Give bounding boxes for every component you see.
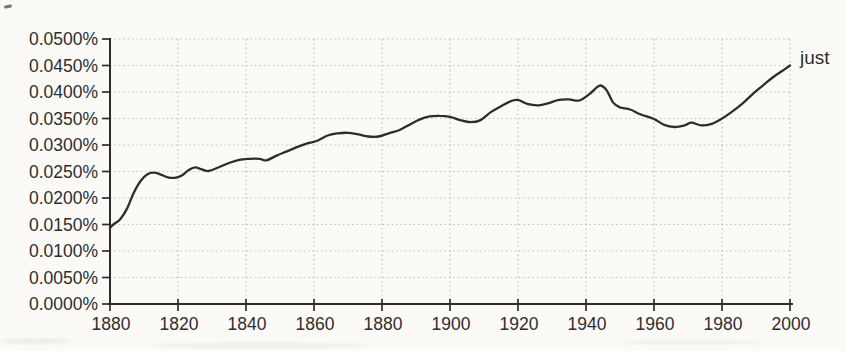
x-tick-label: 1980: [704, 314, 743, 334]
x-tick-label: 1920: [500, 314, 539, 334]
y-tick-label: 0.0450%: [29, 56, 98, 76]
tick-marks: [102, 39, 790, 311]
y-tick-label: 0.0000%: [29, 294, 98, 314]
y-tick-label: 0.0500%: [29, 29, 98, 49]
scan-smudge: [150, 343, 370, 348]
series-label: just: [799, 47, 830, 68]
y-tick-label: 0.0050%: [29, 268, 98, 288]
y-tick-label: 0.0200%: [29, 188, 98, 208]
scanned-ngram-page: 0.0500%0.0450%0.0400%0.0350%0.0300%0.025…: [0, 0, 846, 351]
gridlines: [110, 39, 790, 304]
ngram-frequency-chart: 0.0500%0.0450%0.0400%0.0350%0.0300%0.025…: [0, 0, 846, 351]
x-tick-label: 1880: [92, 314, 131, 334]
x-tick-label: 1840: [228, 314, 267, 334]
y-tick-label: 0.0100%: [29, 241, 98, 261]
y-tick-label: 0.0250%: [29, 162, 98, 182]
x-tick-label: 1820: [160, 314, 199, 334]
x-tick-label: 2000: [772, 314, 811, 334]
x-tick-label: 1860: [296, 314, 335, 334]
y-tick-label: 0.0150%: [29, 215, 98, 235]
x-axis-labels: 1880182018401860188019001920194019601980…: [92, 314, 811, 334]
x-tick-label: 1940: [568, 314, 607, 334]
x-tick-label: 1900: [432, 314, 471, 334]
scan-smudge: [620, 340, 760, 344]
y-tick-label: 0.0400%: [29, 82, 98, 102]
scan-smudge: [0, 338, 70, 344]
y-tick-label: 0.0350%: [29, 109, 98, 129]
y-tick-label: 0.0300%: [29, 135, 98, 155]
frequency-line-just: [110, 66, 790, 228]
x-tick-label: 1880: [364, 314, 403, 334]
y-axis-labels: 0.0500%0.0450%0.0400%0.0350%0.0300%0.025…: [29, 29, 98, 314]
x-tick-label: 1960: [636, 314, 675, 334]
